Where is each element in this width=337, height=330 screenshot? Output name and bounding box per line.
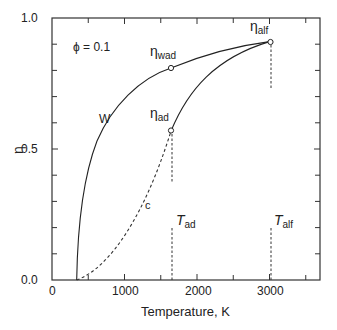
t-symbol: T — [176, 212, 185, 228]
y-tick-label: 0.0 — [21, 274, 38, 286]
eta-subscript: wad — [158, 50, 176, 61]
label-eta-ad: ηad — [150, 106, 169, 123]
y-ticks-right — [314, 44, 320, 254]
eta-subscript: ad — [158, 112, 169, 123]
label-t-ad: Tad — [176, 213, 196, 230]
x-tick-label: 1000 — [112, 285, 139, 297]
point-eta-ad — [168, 128, 173, 133]
eta-symbol: η — [150, 43, 158, 59]
point-eta-wad — [168, 65, 173, 70]
curve-w — [77, 68, 171, 280]
efficiency-temperature-chart: 1.0 0.5 0.0 η 0 1000 2000 3000 Temperatu… — [0, 0, 337, 330]
y-axis-label: η — [11, 146, 25, 154]
t-subscript: ad — [185, 219, 196, 230]
plot-frame — [52, 18, 320, 280]
phi-annotation: ϕ = 0.1 — [73, 41, 110, 53]
curve-ad-alf — [171, 42, 270, 131]
x-tick-label: 2000 — [185, 285, 212, 297]
x-axis-label: Temperature, K — [141, 305, 230, 318]
curve-c — [77, 131, 171, 280]
x-ticks-top — [88, 18, 306, 24]
eta-symbol: η — [150, 105, 158, 121]
y-ticks-left — [52, 44, 58, 254]
x-tick-label: 0 — [49, 285, 56, 297]
label-eta-alf: ηalf — [250, 19, 268, 36]
label-eta-wad: ηwad — [150, 44, 176, 61]
eta-symbol: η — [250, 18, 258, 34]
eta-subscript: alf — [258, 25, 269, 36]
x-ticks-bottom — [88, 274, 306, 280]
point-eta-alf — [268, 39, 273, 44]
y-tick-label: 1.0 — [21, 12, 38, 24]
t-symbol: T — [274, 212, 283, 228]
t-subscript: alf — [283, 219, 294, 230]
curve-label-c: c — [145, 200, 151, 211]
curve-label-w: W — [99, 113, 110, 125]
x-tick-label: 3000 — [257, 285, 284, 297]
curve-wad-alf — [171, 42, 270, 68]
label-t-alf: Talf — [274, 213, 293, 230]
